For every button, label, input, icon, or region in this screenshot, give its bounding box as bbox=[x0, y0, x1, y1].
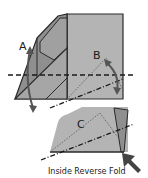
origami-diagram: A B C Inside Reverse Fold bbox=[0, 0, 148, 178]
label-a: A bbox=[19, 40, 27, 53]
arrow-a-tail bbox=[29, 105, 37, 113]
top-figure: A B bbox=[8, 14, 136, 113]
bottom-figure: C bbox=[41, 107, 141, 173]
label-b: B bbox=[93, 49, 101, 62]
label-c: C bbox=[77, 118, 85, 131]
caption: Inside Reverse Fold bbox=[48, 167, 126, 176]
